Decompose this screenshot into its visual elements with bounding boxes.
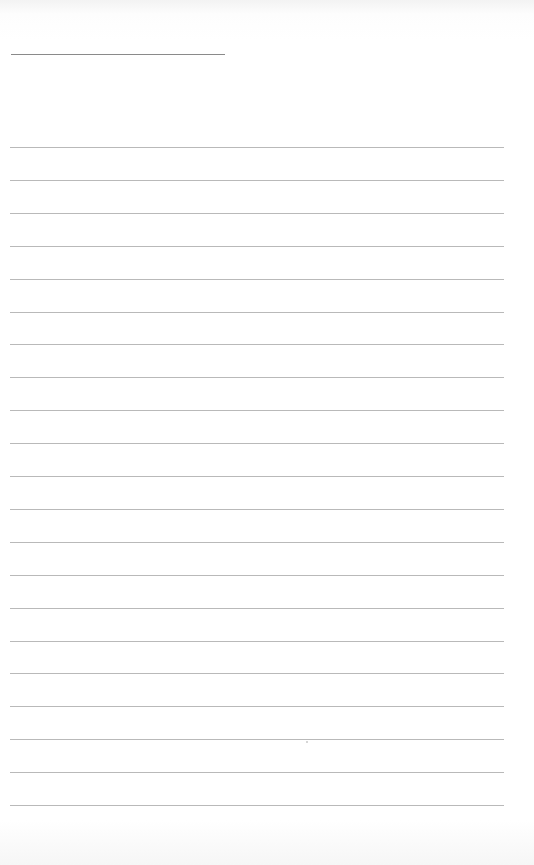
ruled-line xyxy=(10,377,504,378)
ruled-line xyxy=(10,706,504,707)
title-underline xyxy=(11,54,225,55)
ruled-line xyxy=(10,246,504,247)
ruled-line xyxy=(10,805,504,806)
ruled-line xyxy=(10,641,504,642)
ruled-line xyxy=(10,509,504,510)
ruled-line xyxy=(10,476,504,477)
ruled-line xyxy=(10,772,504,773)
ruled-line xyxy=(10,180,504,181)
paper-speck xyxy=(306,741,308,743)
notepad-page xyxy=(0,0,534,865)
ruled-line xyxy=(10,344,504,345)
ruled-line xyxy=(10,542,504,543)
ruled-line xyxy=(10,443,504,444)
ruled-line xyxy=(10,147,504,148)
ruled-line xyxy=(10,673,504,674)
ruled-line xyxy=(10,575,504,576)
ruled-line xyxy=(10,410,504,411)
ruled-line xyxy=(10,279,504,280)
ruled-line xyxy=(10,312,504,313)
ruled-line xyxy=(10,608,504,609)
ruled-line xyxy=(10,739,504,740)
ruled-line xyxy=(10,213,504,214)
